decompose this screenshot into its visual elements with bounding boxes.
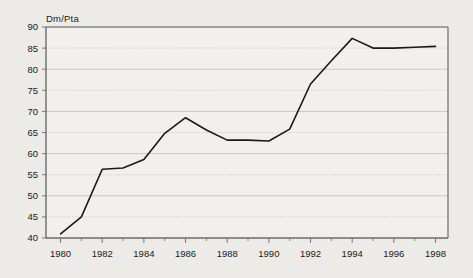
x-tick-label: 1982	[92, 248, 113, 259]
x-tick-label: 1984	[133, 248, 154, 259]
x-tick-label: 1994	[342, 248, 363, 259]
x-tick-label: 1998	[425, 248, 446, 259]
x-tick-label: 1980	[50, 248, 71, 259]
y-tick-label: 90	[27, 21, 38, 32]
x-tick-label: 1996	[383, 248, 404, 259]
y-tick-label: 75	[27, 85, 38, 96]
x-tick-label: 1986	[175, 248, 196, 259]
y-tick-label: 55	[27, 169, 38, 180]
y-tick-label: 65	[27, 127, 38, 138]
chart-container: 4045505560657075808590 19801982198419861…	[0, 0, 473, 278]
y-tick-label: 45	[27, 211, 38, 222]
y-tick-label: 40	[27, 232, 38, 243]
x-tick-label: 1990	[258, 248, 279, 259]
y-tick-label: 50	[27, 190, 38, 201]
x-tick-label: 1992	[300, 248, 321, 259]
y-tick-label: 80	[27, 64, 38, 75]
x-tick-label: 1988	[217, 248, 238, 259]
y-axis-title: Dm/Pta	[46, 13, 79, 24]
y-tick-label: 60	[27, 148, 38, 159]
y-tick-label: 85	[27, 43, 38, 54]
y-tick-label: 70	[27, 106, 38, 117]
line-chart: 4045505560657075808590 19801982198419861…	[0, 0, 473, 278]
